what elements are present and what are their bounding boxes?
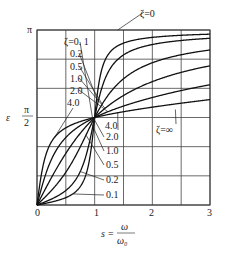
label-zeta-infinity: ζ=∞ (156, 124, 173, 136)
annotation-leader (175, 110, 176, 125)
x-tick-0: 0 (35, 207, 40, 218)
label-lower-0.2: 0.2 (106, 174, 119, 185)
chart-grid (37, 30, 210, 205)
x-axis-label-s: s (101, 228, 105, 239)
x-tick-2: 2 (149, 207, 154, 218)
annotation-leader (94, 118, 104, 137)
y-axis-label: ε (6, 112, 10, 123)
label-lower-0.5: 0.5 (106, 159, 119, 170)
x-tick-1: 1 (94, 207, 99, 218)
label-upper-1.0: 1.0 (70, 73, 83, 84)
label-upper-2.0: 2.0 (70, 85, 83, 96)
label-lower-1.0: 1.0 (106, 145, 119, 156)
phase-chart: π ε π 2 0 1 2 3 s = ω ω₀ ζ=0. 1 0.2 0.5 … (0, 0, 227, 256)
x-axis-label-num: ω (121, 221, 128, 232)
y-tick-pi: π (27, 24, 32, 35)
label-lower-2.0: 2.0 (106, 131, 119, 142)
label-upper-4.0: 4.0 (67, 97, 80, 108)
annotation-leader (73, 194, 104, 195)
x-tick-3: 3 (207, 207, 212, 218)
y-tick-pi-half-den: 2 (24, 117, 29, 128)
x-axis-label-den: ω₀ (117, 235, 128, 246)
x-axis-label-eq: = (108, 228, 114, 239)
label-upper-0.2: 0.2 (70, 48, 83, 59)
label-upper-0.1: ζ=0. 1 (64, 36, 89, 48)
label-zeta-zero: ζ=0 (140, 8, 155, 20)
label-lower-0.1: 0.1 (106, 189, 119, 200)
y-tick-pi-half-num: π (24, 104, 29, 115)
label-upper-0.5: 0.5 (70, 61, 83, 72)
label-right-4.0: 4.0 (105, 120, 118, 131)
